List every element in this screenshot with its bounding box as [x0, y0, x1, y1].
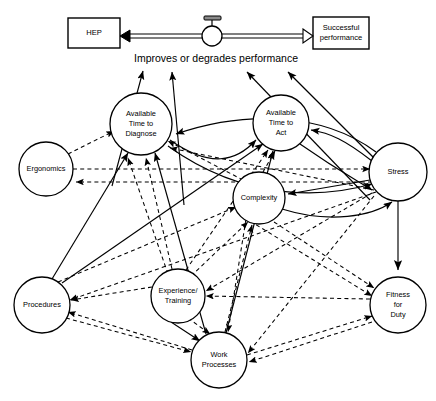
node-label-line: Processes [202, 360, 237, 369]
node-complexity[interactable]: Complexity [233, 172, 285, 224]
influence-diagram: Available Time to Diagnose Available Tim… [0, 0, 436, 401]
diagram-canvas: Available Time to Diagnose Available Tim… [0, 0, 436, 401]
node-stress[interactable]: Stress [369, 143, 427, 201]
performance-banner-label: Improves or degrades performance [134, 52, 298, 64]
node-experience-training[interactable]: Experience/ Training [151, 269, 205, 323]
node-label-line: Time to [269, 118, 293, 127]
node-label-line: Available [266, 108, 296, 117]
node-label-line: Fitness [386, 290, 410, 299]
node-label-line: Ergonomics [26, 164, 65, 173]
node-label-line: Work [210, 350, 227, 359]
solid-edges [52, 119, 398, 341]
flow-pipe-left [120, 30, 202, 42]
node-label-line: Available [126, 109, 156, 118]
hep-box-label: HEP [86, 28, 102, 37]
flow-pipe-right [222, 29, 313, 43]
flow-valve-icon [202, 16, 222, 46]
node-label-line: Duty [390, 310, 406, 319]
node-label-line: Diagnose [125, 129, 156, 138]
node-label-line: Time to [129, 119, 153, 128]
node-label-line: Procedures [23, 300, 61, 309]
node-label-line: Act [276, 128, 287, 137]
successful-performance-label-line2: performance [320, 33, 363, 42]
node-label-line: Stress [388, 167, 409, 176]
node-available-time-to-diagnose[interactable]: Available Time to Diagnose [110, 93, 172, 155]
node-fitness-for-duty[interactable]: Fitness for Duty [370, 277, 426, 333]
successful-performance-label-line1: Successful [323, 23, 360, 32]
node-label-line: Experience/ [158, 286, 198, 295]
node-work-processes[interactable]: Work Processes [191, 332, 247, 388]
node-procedures[interactable]: Procedures [14, 277, 70, 333]
dashed-edges [58, 131, 376, 362]
node-label-line: Training [165, 296, 191, 305]
node-available-time-to-act[interactable]: Available Time to Act [253, 95, 309, 151]
node-label-line: Complexity [241, 193, 278, 202]
node-ergonomics[interactable]: Ergonomics [19, 142, 73, 196]
node-label-line: for [394, 300, 403, 309]
